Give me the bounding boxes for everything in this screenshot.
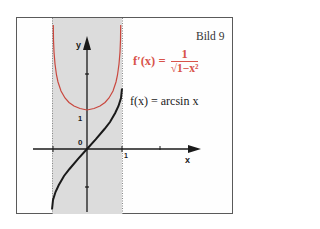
derivative-numerator: 1 xyxy=(171,48,199,62)
derivative-formula: f′(x) = 1 √1−x² xyxy=(133,48,198,75)
function-formula: f(x) = arcsin x xyxy=(130,94,198,109)
y-tick-label-1: 1 xyxy=(78,114,82,123)
y-axis-label: y xyxy=(76,40,81,50)
origin-label: 0 xyxy=(78,138,83,147)
x-tick-label-1: 1 xyxy=(124,152,128,159)
x-axis-label: x xyxy=(185,155,190,165)
x-axis-arrow-icon xyxy=(188,145,201,153)
derivative-denominator: √1−x² xyxy=(171,62,199,75)
figure-title: Bild 9 xyxy=(196,30,224,42)
derivative-fraction: 1 √1−x² xyxy=(171,48,199,75)
derivative-lhs: f′(x) = xyxy=(133,54,166,68)
